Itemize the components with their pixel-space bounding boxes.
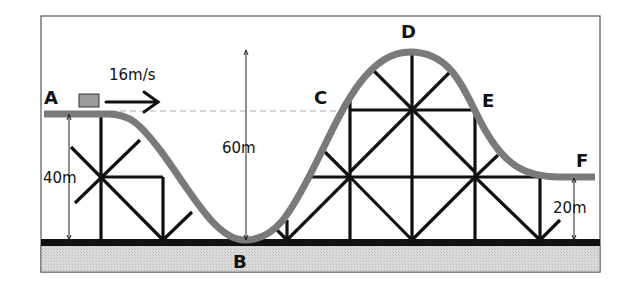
velocity-arrow-icon	[106, 92, 158, 112]
height-label-d: 60m	[222, 139, 256, 157]
label-a: A	[44, 87, 58, 108]
label-e: E	[482, 90, 494, 111]
ground-line	[41, 239, 600, 246]
frame	[41, 16, 600, 272]
ground-fill	[41, 245, 600, 272]
label-c: C	[314, 87, 327, 108]
roller-coaster-diagram: A B C D E F 16m/s 40m 60m 20m	[0, 0, 638, 298]
label-b: B	[233, 251, 247, 272]
cart	[79, 94, 99, 107]
label-f: F	[576, 150, 588, 171]
velocity-label: 16m/s	[109, 66, 156, 84]
height-label-f: 20m	[553, 199, 587, 217]
label-d: D	[401, 21, 416, 42]
height-label-a: 40m	[43, 169, 77, 187]
